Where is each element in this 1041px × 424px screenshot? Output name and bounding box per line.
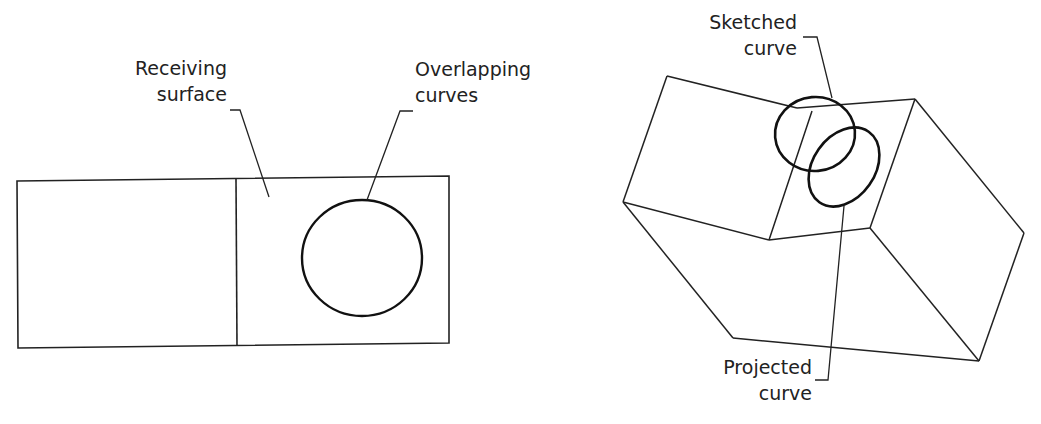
middle-face-bottom (769, 228, 870, 240)
projected-curve-label-line1: Projected (700, 354, 812, 380)
left-face-top (667, 76, 797, 108)
overlapping-curves-leader (367, 111, 413, 200)
sketched-curve-label-line2: curve (690, 35, 797, 61)
bottom-face-left (623, 202, 733, 338)
overlapping-curves-label: Overlapping curves (415, 56, 531, 108)
right-face-right (979, 233, 1024, 361)
sketched-curve-label: Sketched curve (690, 9, 797, 61)
right-face-top (915, 99, 1024, 233)
sketched-curve-leader (803, 37, 832, 98)
right-figure (623, 37, 1024, 380)
receiving-surface-label-line1: Receiving (112, 55, 227, 81)
receiving-surface-label: Receiving surface (112, 55, 227, 107)
projected-curve-label: Projected curve (700, 354, 812, 406)
outer-rectangle (17, 176, 449, 348)
left-face-left (623, 76, 667, 202)
overlapping-curves-label-line2: curves (415, 82, 531, 108)
left-face-bottom (623, 202, 769, 240)
middle-face-right (870, 99, 915, 228)
overlapping-circle (302, 200, 422, 316)
middle-face-top (797, 99, 915, 108)
divider-line (236, 179, 237, 346)
left-figure (17, 110, 449, 348)
receiving-surface-label-line2: surface (112, 81, 227, 107)
overlapping-curves-label-line1: Overlapping (415, 56, 531, 82)
sketched-curve-label-line1: Sketched (690, 9, 797, 35)
right-face-diagonal (870, 228, 979, 361)
projected-curve-label-line2: curve (700, 380, 812, 406)
